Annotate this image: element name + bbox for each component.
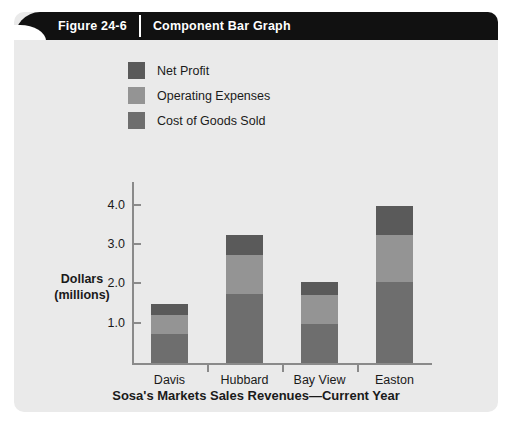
legend-swatch xyxy=(128,62,145,79)
y-axis-tick-label: 2.0 xyxy=(108,276,125,290)
figure-header-banner: Figure 24-6 Component Bar Graph xyxy=(14,12,498,40)
bar-segment-cost-of-goods-sold xyxy=(226,294,263,363)
y-axis-tick-label: 3.0 xyxy=(108,237,125,251)
legend-item: Net Profit xyxy=(128,62,270,79)
legend-label: Net Profit xyxy=(157,64,209,78)
legend-label: Operating Expenses xyxy=(157,89,270,103)
y-axis-tick-label: 4.0 xyxy=(108,198,125,212)
bar-easton[interactable]: Easton xyxy=(376,206,413,363)
bar-segment-operating-expenses xyxy=(376,235,413,282)
figure-title: Component Bar Graph xyxy=(153,19,291,33)
bar-davis[interactable]: Davis xyxy=(151,304,188,363)
y-axis-tick: 2.0 xyxy=(134,282,141,284)
x-axis-title: Sosa's Markets Sales Revenues—Current Ye… xyxy=(14,388,498,403)
bar-segment-cost-of-goods-sold xyxy=(151,334,188,363)
bar-segment-operating-expenses xyxy=(301,295,338,323)
legend-swatch xyxy=(128,112,145,129)
bar-segment-net-profit xyxy=(376,206,413,235)
bar-segment-operating-expenses xyxy=(226,255,263,294)
y-axis-tick-label: 1.0 xyxy=(108,316,125,330)
figure-number: Figure 24-6 xyxy=(58,19,127,33)
banner-divider xyxy=(139,15,141,37)
y-axis-tick: 1.0 xyxy=(134,322,141,324)
y-axis-tick: 4.0 xyxy=(134,204,141,206)
bar-segment-cost-of-goods-sold xyxy=(376,282,413,363)
legend-item: Operating Expenses xyxy=(128,87,270,104)
bar-hubbard[interactable]: Hubbard xyxy=(226,235,263,363)
bar-segment-operating-expenses xyxy=(151,315,188,333)
bar-segment-cost-of-goods-sold xyxy=(301,324,338,363)
bar-segment-net-profit xyxy=(226,235,263,255)
legend-swatch xyxy=(128,87,145,104)
bar-bay-view[interactable]: Bay View xyxy=(301,282,338,363)
y-axis-tick: 3.0 xyxy=(134,243,141,245)
plot-area: 1.02.03.04.0DavisHubbardBay ViewEaston xyxy=(132,190,432,365)
chart-legend: Net ProfitOperating ExpensesCost of Good… xyxy=(128,62,270,129)
bar-segment-net-profit xyxy=(151,304,188,315)
x-axis-tick xyxy=(357,365,359,372)
y-axis-line xyxy=(132,182,134,365)
x-axis-tick xyxy=(282,365,284,372)
x-axis-category-label: Easton xyxy=(350,373,440,387)
x-axis-tick xyxy=(207,365,209,372)
legend-label: Cost of Goods Sold xyxy=(157,114,265,128)
bar-segment-net-profit xyxy=(301,282,338,295)
legend-item: Cost of Goods Sold xyxy=(128,112,270,129)
